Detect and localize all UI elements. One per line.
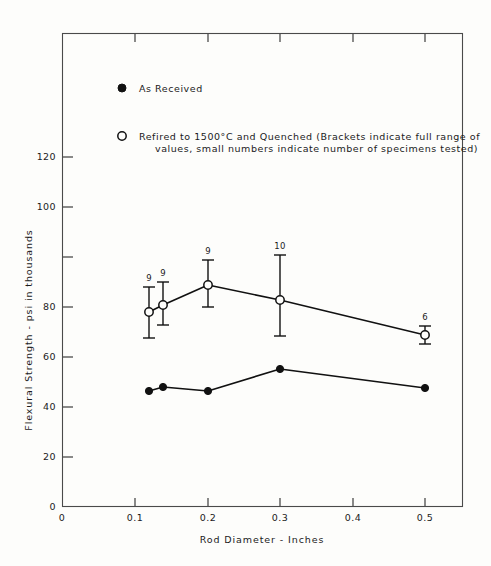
data-point-open — [159, 301, 167, 309]
specimen-count-label: 10 — [274, 241, 285, 251]
specimen-count-label: 9 — [160, 268, 166, 278]
y-tick-label: 120 — [37, 151, 56, 162]
data-point-open — [145, 308, 153, 316]
legend-label-as-received: As Received — [139, 83, 203, 94]
data-point-filled — [421, 384, 428, 391]
data-point-open — [421, 331, 429, 339]
specimen-count-label: 6 — [422, 312, 428, 322]
y-tick-label: 0 — [50, 501, 56, 512]
data-point-filled — [159, 383, 166, 390]
y-tick-label: 60 — [43, 351, 56, 362]
legend-open-circle-icon — [118, 132, 126, 140]
data-point-filled — [145, 387, 152, 394]
flexural-strength-chart: 0 0.1 0.2 0.3 0.4 0.5 Rod Diameter - Inc… — [0, 0, 491, 566]
data-point-filled — [204, 387, 211, 394]
y-tick-label: 40 — [43, 401, 56, 412]
x-axis-title: Rod Diameter - Inches — [200, 534, 325, 545]
y-tick-label: 20 — [43, 451, 56, 462]
x-tick-label: 0.4 — [345, 512, 361, 523]
y-tick-label: 100 — [37, 201, 56, 212]
x-tick-label: 0.1 — [127, 512, 143, 523]
y-axis-title: Flexural Strength - psi in thousands — [23, 229, 34, 430]
legend-label-refired-line1: Refired to 1500°C and Quenched (Brackets… — [139, 131, 480, 142]
x-tick-label: 0.5 — [417, 512, 433, 523]
y-tick-label: 80 — [43, 301, 56, 312]
legend-label-refired-line2: values, small numbers indicate number of… — [155, 143, 478, 154]
chart-figure: 0 0.1 0.2 0.3 0.4 0.5 Rod Diameter - Inc… — [0, 0, 491, 566]
x-tick-label: 0.2 — [200, 512, 216, 523]
data-point-filled — [276, 365, 283, 372]
x-tick-label: 0 — [59, 512, 65, 523]
legend-filled-circle-icon — [118, 84, 126, 92]
chart-background — [0, 0, 491, 566]
data-point-open — [276, 296, 284, 304]
specimen-count-label: 9 — [146, 273, 152, 283]
data-point-open — [204, 281, 212, 289]
specimen-count-label: 9 — [205, 246, 211, 256]
x-tick-label: 0.3 — [272, 512, 288, 523]
